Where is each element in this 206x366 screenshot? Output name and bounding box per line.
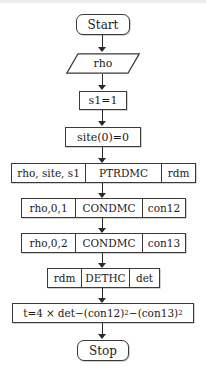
ptrdmc-output-cell: rdm	[162, 164, 195, 182]
top-edge-band	[0, 0, 206, 3]
condmc12-input-cell: rho,0,1	[22, 199, 75, 217]
node-set-s1[interactable]: s1=1	[79, 91, 127, 110]
node-set-s1-label: s1=1	[89, 95, 118, 106]
node-start[interactable]: Start	[76, 14, 130, 35]
flowchart-canvas: Start rho s1=1 site(0)=0 rho, site, s1 P…	[0, 0, 206, 366]
edge-formula-to-stop-arrow	[98, 334, 106, 339]
formula-minus-2: −(	[129, 308, 142, 319]
node-start-label: Start	[88, 19, 119, 31]
condmc12-output-cell: con12	[143, 199, 185, 217]
node-condmc12-row[interactable]: rho,0,1 CONDMC con12	[21, 198, 186, 218]
formula-minus-1: −(	[75, 308, 88, 319]
condmc13-procedure-cell[interactable]: CONDMC	[75, 234, 143, 252]
node-stop[interactable]: Stop	[77, 340, 129, 361]
node-ptrdmc-row[interactable]: rho, site, s1 PTRDMC rdm	[11, 163, 196, 183]
edge-s1-to-site-arrow	[98, 121, 106, 126]
condmc12-procedure-cell[interactable]: CONDMC	[75, 199, 143, 217]
condmc13-output-cell: con13	[143, 234, 185, 252]
dethc-output-cell: det	[130, 269, 159, 287]
node-set-site[interactable]: site(0)=0	[65, 127, 141, 147]
edge-start-to-rho-arrow	[98, 47, 106, 52]
node-dethc-row[interactable]: rdm DETHC det	[47, 268, 160, 288]
condmc13-input-cell: rho,0,2	[22, 234, 75, 252]
node-formula[interactable]: t=4×det−(con12)2−(con13)2	[12, 303, 194, 323]
node-condmc13-row[interactable]: rho,0,2 CONDMC con13	[21, 233, 186, 253]
node-stop-label: Stop	[89, 345, 117, 357]
dethc-procedure-cell[interactable]: DETHC	[81, 269, 130, 287]
dethc-input-cell: rdm	[48, 269, 81, 287]
formula-con12-term: con12	[88, 308, 120, 319]
formula-det-term: det	[58, 308, 75, 319]
formula-times-operator: ×	[46, 308, 55, 319]
edge-rho-to-s1-arrow	[98, 85, 106, 90]
formula-lhs: t=4	[23, 308, 43, 319]
ptrdmc-input-cell: rho, site, s1	[12, 164, 85, 182]
node-input-rho-label: rho	[66, 53, 140, 74]
node-set-site-label: site(0)=0	[77, 132, 129, 143]
ptrdmc-procedure-cell[interactable]: PTRDMC	[85, 164, 162, 182]
formula-con13-term: con13	[142, 308, 174, 319]
node-input-rho[interactable]: rho	[66, 53, 140, 74]
